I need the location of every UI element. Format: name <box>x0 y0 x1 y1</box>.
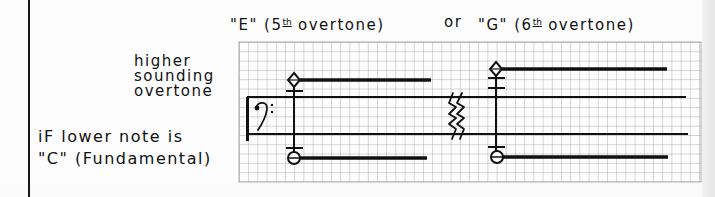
staff-diagram <box>0 0 715 197</box>
graph-paper-grid <box>239 42 701 182</box>
